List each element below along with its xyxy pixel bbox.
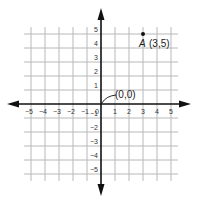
y-tick-label: −2 (90, 124, 98, 131)
arrow-right-icon (179, 101, 191, 108)
point-a-name: A (138, 38, 146, 49)
x-tick-label: 1 (113, 108, 117, 115)
x-tick-label: 2 (127, 108, 131, 115)
x-tick-label: 3 (141, 108, 145, 115)
point-a-marker (141, 32, 145, 36)
x-tick-label: −1 (81, 108, 89, 115)
y-tick-label: −4 (90, 152, 98, 159)
y-tick-label: 5 (94, 26, 98, 33)
y-tick-label: 4 (94, 40, 98, 47)
x-tick-label: −4 (39, 108, 47, 115)
arrow-left-icon (7, 101, 19, 108)
arrow-up-icon (98, 8, 105, 20)
y-tick-label: 1 (94, 82, 98, 89)
point-a-coords: (3,5) (149, 38, 170, 49)
y-tick-label: 2 (94, 68, 98, 75)
x-tick-label: 4 (155, 108, 159, 115)
arrow-down-icon (98, 184, 105, 196)
x-tick-label: −2 (67, 108, 75, 115)
x-tick-label: −5 (25, 108, 33, 115)
y-tick-label: −1 (90, 110, 98, 117)
x-tick-label: −3 (53, 108, 61, 115)
annotations: (0,0) A (3,5) (102, 32, 170, 103)
y-tick-label: −5 (90, 166, 98, 173)
origin-leader-line (102, 95, 116, 103)
origin-label: (0,0) (115, 89, 136, 100)
x-tick-label: 5 (169, 108, 173, 115)
y-tick-label: −3 (90, 138, 98, 145)
coordinate-plane: −5−4−3−2−101234554321−1−2−3−4−5 (0,0) A … (0, 0, 198, 202)
axes (7, 8, 191, 196)
y-tick-label: 3 (94, 54, 98, 61)
